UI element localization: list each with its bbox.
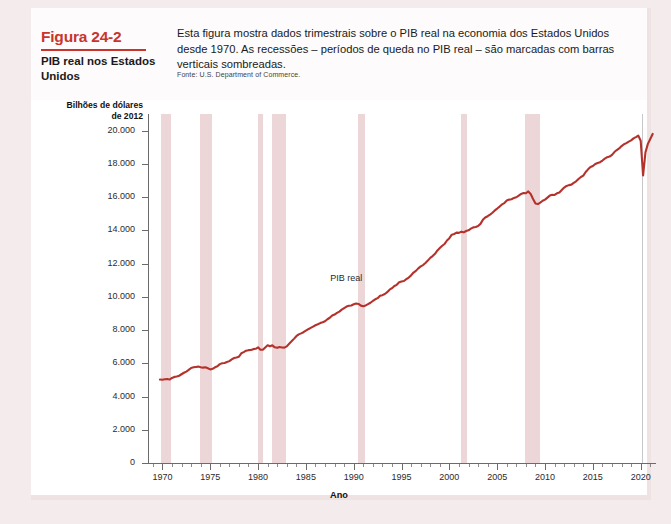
x-axis-minor-tick [612,464,613,467]
x-axis-major-tick [497,464,498,470]
x-axis-minor-tick [421,464,422,467]
x-axis-minor-tick [516,464,517,467]
y-axis-tick-label: 10.000 [71,291,135,301]
y-axis-tick [142,463,148,464]
x-axis-minor-tick [622,464,623,467]
x-axis-tick-label: 1975 [190,472,230,482]
y-axis-tick [142,397,148,398]
x-axis-minor-tick [287,464,288,467]
x-axis-minor-tick [507,464,508,467]
x-axis-tick-label: 1990 [334,472,374,482]
x-axis-minor-tick [392,464,393,467]
x-axis-tick-label: 1995 [382,472,422,482]
y-axis-tick-label: 4.000 [71,391,135,401]
x-axis-major-tick [258,464,259,470]
x-axis-minor-tick [153,464,154,467]
figure-panel: Figura 24-2 PIB real nos Estados Unidos … [31,8,647,495]
x-axis-minor-tick [631,464,632,467]
chart-area: Bilhões de dólares de 2012 PIB real 02.0… [31,100,647,495]
x-axis-minor-tick [363,464,364,467]
x-axis-minor-tick [564,464,565,467]
x-axis-minor-tick [583,464,584,467]
x-axis-minor-tick [248,464,249,467]
x-axis-minor-tick [344,464,345,467]
x-axis-minor-tick [325,464,326,467]
y-axis-tick-label: 16.000 [71,191,135,201]
x-axis-tick-label: 2005 [477,472,517,482]
x-axis-major-tick [306,464,307,470]
y-axis-tick-label: 18.000 [71,158,135,168]
figure-header: Figura 24-2 PIB real nos Estados Unidos … [31,8,647,100]
x-axis-minor-tick [373,464,374,467]
y-axis-tick-label: 14.000 [71,224,135,234]
x-axis-tick-label: 1980 [238,472,278,482]
y-axis-tick [142,330,148,331]
x-axis-minor-tick [268,464,269,467]
x-axis-tick-label: 1970 [142,472,182,482]
y-axis-tick [142,131,148,132]
y-axis-tick-label: 6.000 [71,357,135,367]
x-axis-major-tick [449,464,450,470]
y-axis-tick-label: 12.000 [71,258,135,268]
figure-rule-divider [41,49,146,51]
plot-region: PIB real [149,114,656,463]
y-axis-tick-label: 2.000 [71,424,135,434]
x-axis-minor-tick [440,464,441,467]
y-axis-tick [142,164,148,165]
y-axis-tick [142,264,148,265]
x-axis-label: Ano [31,490,647,500]
x-axis-tick-label: 2015 [573,472,613,482]
figure-description: Esta figura mostra dados trimestrais sob… [177,26,637,73]
x-axis-major-tick [593,464,594,470]
x-axis-minor-tick [535,464,536,467]
x-axis-minor-tick [201,464,202,467]
x-axis-major-tick [162,464,163,470]
x-axis-minor-tick [555,464,556,467]
x-axis-tick-label: 2010 [525,472,565,482]
y-axis-tick-label: 20.000 [71,125,135,135]
x-axis-minor-tick [526,464,527,467]
x-axis-major-tick [641,464,642,470]
x-axis-major-tick [402,464,403,470]
y-axis-tick-label: 0 [71,457,135,467]
x-axis-minor-tick [191,464,192,467]
x-axis-major-tick [545,464,546,470]
figure-source-note: Fonte: U.S. Department of Commerce. [177,71,577,78]
x-axis-minor-tick [315,464,316,467]
x-axis-tick-label: 2020 [621,472,661,482]
figure-number-label: Figura 24-2 [41,28,161,46]
x-axis-major-tick [210,464,211,470]
x-axis-minor-tick [574,464,575,467]
x-axis-minor-tick [382,464,383,467]
y-axis-tick [142,230,148,231]
gdp-line-path [160,134,653,380]
gdp-line-chart [149,114,656,463]
y-axis-tick [142,430,148,431]
x-axis-minor-tick [296,464,297,467]
y-axis-tick [142,363,148,364]
x-axis-minor-tick [229,464,230,467]
y-axis-tick [142,197,148,198]
series-annotation-pib-real: PIB real [330,273,362,283]
x-axis-minor-tick [459,464,460,467]
x-axis-minor-tick [182,464,183,467]
x-axis-minor-tick [469,464,470,467]
x-axis-minor-tick [239,464,240,467]
y-axis-line [148,114,149,463]
y-axis-tick [142,297,148,298]
x-axis-minor-tick [220,464,221,467]
x-axis-minor-tick [478,464,479,467]
x-axis-major-tick [354,464,355,470]
figure-title: PIB real nos Estados Unidos [41,54,169,83]
y-axis-label: Bilhões de dólares de 2012 [65,100,143,122]
x-axis-minor-tick [488,464,489,467]
x-axis-minor-tick [430,464,431,467]
x-axis-minor-tick [172,464,173,467]
x-axis-minor-tick [411,464,412,467]
x-axis-minor-tick [650,464,651,467]
x-axis-tick-label: 1985 [286,472,326,482]
figure-page: Figura 24-2 PIB real nos Estados Unidos … [0,0,671,524]
y-axis-tick-label: 8.000 [71,324,135,334]
x-axis-minor-tick [277,464,278,467]
x-axis-minor-tick [335,464,336,467]
